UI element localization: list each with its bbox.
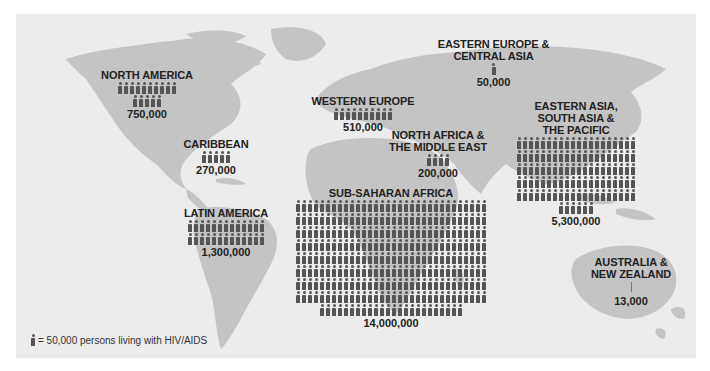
person-icon bbox=[259, 220, 265, 232]
person-icon bbox=[481, 252, 487, 264]
region-value: 750,000 bbox=[92, 108, 202, 121]
icon-grid bbox=[294, 200, 488, 317]
region-australia-new-zealand: AUSTRALIA & NEW ZEALAND 13,000 bbox=[586, 256, 676, 308]
person-icon bbox=[481, 291, 487, 303]
icon-grid bbox=[490, 63, 498, 76]
person-icon bbox=[457, 304, 463, 316]
region-value: 14,000,000 bbox=[291, 317, 491, 330]
person-icon bbox=[481, 213, 487, 225]
person-icon bbox=[387, 108, 393, 120]
legend-text: = 50,000 persons living with HIV/AIDS bbox=[38, 335, 207, 346]
icon-grid bbox=[332, 108, 394, 121]
world-map-panel: NORTH AMERICA 750,000 CARIBBEAN 270,000 … bbox=[16, 14, 696, 358]
region-name: WESTERN EUROPE bbox=[308, 95, 418, 107]
region-value: 5,300,000 bbox=[506, 215, 646, 228]
region-name: EASTERN EUROPE & CENTRAL ASIA bbox=[431, 38, 556, 62]
person-icon bbox=[481, 226, 487, 238]
person-icon bbox=[481, 200, 487, 212]
region-name: EASTERN ASIA, SOUTH ASIA & THE PACIFIC bbox=[531, 100, 621, 136]
person-icon bbox=[630, 163, 636, 175]
region-value: 270,000 bbox=[181, 164, 251, 177]
region-north-africa-middle-east: NORTH AFRICA & THE MIDDLE EAST 200,000 bbox=[383, 129, 493, 180]
person-icon bbox=[30, 334, 36, 346]
person-icon bbox=[444, 154, 450, 166]
region-value: 200,000 bbox=[383, 167, 493, 180]
region-name: LATIN AMERICA bbox=[176, 207, 276, 219]
legend: = 50,000 persons living with HIV/AIDS bbox=[30, 334, 207, 347]
region-sub-saharan-africa: SUB-SAHARAN AFRICA 14,000,000 bbox=[291, 187, 491, 330]
region-name: CARIBBEAN bbox=[181, 138, 251, 150]
person-icon bbox=[156, 95, 162, 107]
person-icon bbox=[481, 278, 487, 290]
person-icon bbox=[491, 63, 497, 75]
region-value: 13,000 bbox=[586, 295, 676, 308]
person-icon bbox=[588, 202, 594, 214]
region-name: NORTH AMERICA bbox=[92, 69, 202, 81]
person-icon bbox=[259, 233, 265, 245]
region-north-america: NORTH AMERICA 750,000 bbox=[92, 69, 202, 121]
region-east-south-asia-pacific: EASTERN ASIA, SOUTH ASIA & THE PACIFIC 5… bbox=[506, 100, 646, 228]
person-icon bbox=[481, 265, 487, 277]
person-icon bbox=[630, 189, 636, 201]
person-icon bbox=[630, 137, 636, 149]
region-latin-america: LATIN AMERICA 1,300,000 bbox=[176, 207, 276, 259]
region-value: 50,000 bbox=[431, 76, 556, 89]
region-name: SUB-SAHARAN AFRICA bbox=[291, 187, 491, 199]
region-name: NORTH AFRICA & THE MIDDLE EAST bbox=[383, 129, 493, 153]
icon-grid bbox=[200, 151, 232, 164]
person-icon bbox=[171, 82, 177, 94]
region-caribbean: CARIBBEAN 270,000 bbox=[181, 138, 251, 177]
region-eastern-europe-central-asia: EASTERN EUROPE & CENTRAL ASIA 50,000 bbox=[431, 38, 556, 89]
region-name: AUSTRALIA & NEW ZEALAND bbox=[586, 256, 676, 280]
person-icon bbox=[481, 239, 487, 251]
person-icon bbox=[225, 151, 231, 163]
icon-grid bbox=[515, 137, 637, 215]
person-icon bbox=[630, 176, 636, 188]
icon-grid bbox=[425, 154, 451, 167]
person-icon bbox=[630, 150, 636, 162]
icon-grid bbox=[116, 82, 178, 108]
icon-grid bbox=[186, 220, 266, 246]
fractional-icon bbox=[631, 282, 632, 292]
region-value: 1,300,000 bbox=[176, 246, 276, 259]
